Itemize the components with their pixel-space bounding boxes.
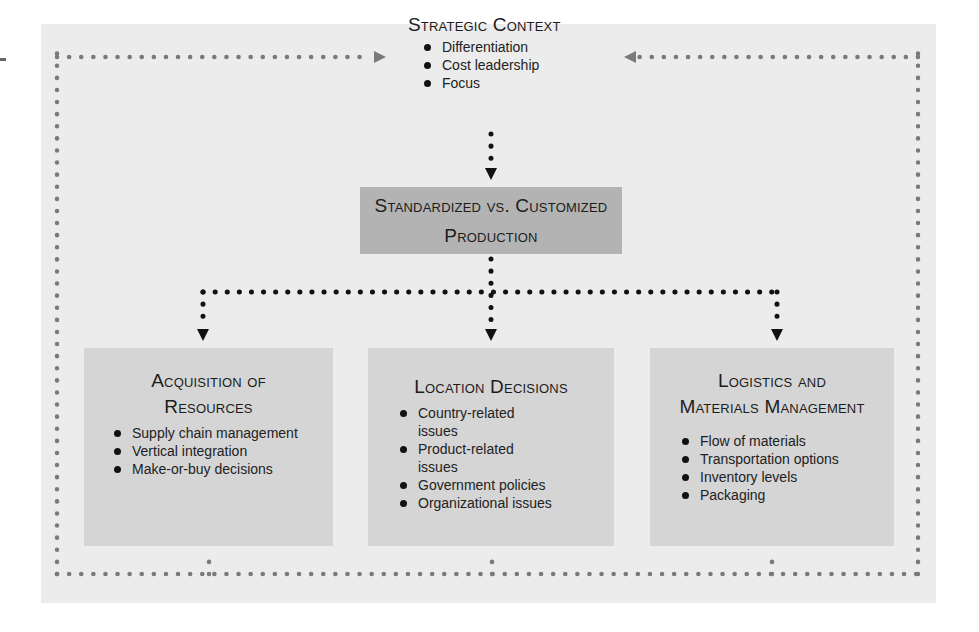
logistics-title-line2: Materials Management xyxy=(650,394,894,420)
list-item: Cost leadership xyxy=(420,56,608,74)
strategic-context: Strategic Context Differentiation Cost l… xyxy=(408,12,608,92)
logistics-title-line1: Logistics and xyxy=(650,368,894,394)
list-item: Supply chain management xyxy=(110,424,333,442)
production-title-line2: Production xyxy=(375,221,608,251)
list-item: Inventory levels xyxy=(678,468,894,486)
list-item: Country-related issues xyxy=(396,404,546,440)
strategic-context-list: Differentiation Cost leadership Focus xyxy=(420,38,608,92)
acquisition-box: Acquisition of Resources Supply chain ma… xyxy=(84,348,333,546)
arrow-down-icon xyxy=(485,168,497,180)
list-item: Make-or-buy decisions xyxy=(110,460,333,478)
location-box: Location Decisions Country-related issue… xyxy=(368,348,614,546)
list-item: Product-related issues xyxy=(396,440,546,476)
production-box: Standardized vs. Customized Production xyxy=(360,187,622,254)
production-title-line1: Standardized vs. Customized xyxy=(375,191,608,221)
list-item: Differentiation xyxy=(420,38,608,56)
list-item: Flow of materials xyxy=(678,432,894,450)
list-item: Vertical integration xyxy=(110,442,333,460)
acquisition-list: Supply chain management Vertical integra… xyxy=(110,424,333,478)
acquisition-title: Acquisition of Resources xyxy=(84,368,333,420)
list-item: Focus xyxy=(420,74,608,92)
production-title: Standardized vs. Customized Production xyxy=(375,191,608,251)
location-list: Country-related issues Product-related i… xyxy=(396,404,546,512)
arrow-down-icon xyxy=(485,329,497,341)
arrow-down-icon xyxy=(197,329,209,341)
logistics-box: Logistics and Materials Management Flow … xyxy=(650,348,894,546)
logistics-list: Flow of materials Transportation options… xyxy=(678,432,894,504)
acquisition-title-line1: Acquisition of xyxy=(84,368,333,394)
arrow-down-icon xyxy=(771,329,783,341)
acquisition-title-line2: Resources xyxy=(84,394,333,420)
arrow-right-icon xyxy=(374,51,386,63)
list-item: Organizational issues xyxy=(396,494,546,512)
list-item: Packaging xyxy=(678,486,894,504)
list-item: Government policies xyxy=(396,476,546,494)
logistics-title: Logistics and Materials Management xyxy=(650,368,894,420)
arrow-left-icon xyxy=(624,51,636,63)
list-item: Transportation options xyxy=(678,450,894,468)
location-title: Location Decisions xyxy=(368,374,614,400)
strategic-context-title: Strategic Context xyxy=(408,12,608,38)
